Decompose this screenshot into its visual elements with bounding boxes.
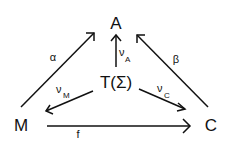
- label-nu-C-subscript: C: [164, 91, 170, 100]
- arrow-f: [47, 119, 190, 133]
- label-alpha: α: [50, 51, 57, 63]
- node-C: C: [205, 116, 217, 135]
- label-nu-M-subscript: M: [63, 91, 70, 100]
- label-nu-M: ν: [56, 83, 62, 95]
- label-beta: β: [173, 53, 179, 65]
- label-nu-C: ν: [157, 82, 163, 94]
- node-A: A: [110, 14, 122, 33]
- commutative-diagram: A T(Σ) M C α β ν A ν M ν C f: [0, 0, 233, 146]
- label-nu-A-subscript: A: [125, 55, 131, 64]
- node-T-sigma: T(Σ): [100, 73, 132, 92]
- arrow-beta: [137, 35, 208, 107]
- node-M: M: [14, 116, 28, 135]
- label-f: f: [76, 128, 80, 140]
